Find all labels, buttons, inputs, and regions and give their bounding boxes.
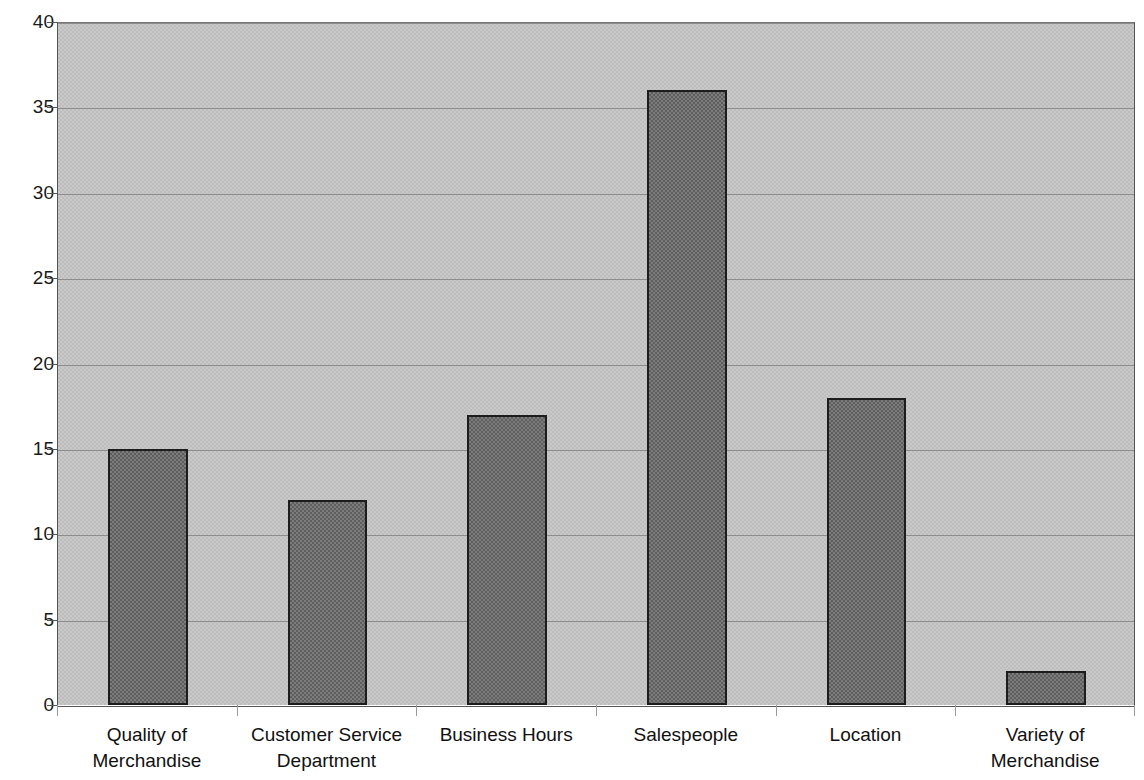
y-tick-mark-25 xyxy=(47,278,57,279)
gridline-40 xyxy=(58,23,1134,24)
y-tick-mark-30 xyxy=(47,193,57,194)
bar-3 xyxy=(647,90,727,705)
x-axis-label-line2: Merchandise xyxy=(955,748,1135,774)
x-axis-label-5: Variety ofMerchandise xyxy=(955,722,1135,774)
bar-2 xyxy=(467,415,547,705)
x-axis-label-3: Salespeople xyxy=(596,722,776,748)
x-tick-mark-end xyxy=(1134,705,1135,716)
y-tick-mark-0 xyxy=(47,705,57,706)
x-axis-labels: Quality ofMerchandiseCustomer ServiceDep… xyxy=(57,722,1135,780)
x-tick-mark-2 xyxy=(416,705,417,716)
x-tick-mark-0 xyxy=(57,705,58,716)
x-tick-mark-3 xyxy=(596,705,597,716)
x-axis-label-2: Business Hours xyxy=(416,722,596,748)
gridline-25 xyxy=(58,279,1134,280)
x-axis-label-line1: Quality of xyxy=(107,724,187,745)
x-axis-label-line1: Location xyxy=(830,724,902,745)
plot-area xyxy=(57,22,1135,705)
gridline-30 xyxy=(58,194,1134,195)
y-tick-mark-40 xyxy=(47,22,57,23)
bar-4 xyxy=(827,398,907,705)
x-axis-label-line1: Customer Service xyxy=(251,724,402,745)
x-axis-ticks xyxy=(57,705,1135,717)
y-tick-mark-35 xyxy=(47,107,57,108)
gridline-15 xyxy=(58,450,1134,451)
gridline-5 xyxy=(58,621,1134,622)
bar-chart: 0510152025303540 Quality ofMerchandiseCu… xyxy=(0,0,1144,780)
bar-1 xyxy=(288,500,368,705)
gridline-10 xyxy=(58,535,1134,536)
x-axis-label-line1: Business Hours xyxy=(440,724,573,745)
x-axis-label-0: Quality ofMerchandise xyxy=(57,722,237,774)
y-tick-mark-10 xyxy=(47,534,57,535)
x-axis-label-line1: Salespeople xyxy=(634,724,739,745)
x-tick-mark-4 xyxy=(776,705,777,716)
x-axis-label-line2: Merchandise xyxy=(57,748,237,774)
bar-0 xyxy=(108,449,188,705)
x-axis-label-1: Customer ServiceDepartment xyxy=(237,722,417,774)
x-tick-mark-5 xyxy=(955,705,956,716)
x-axis-label-4: Location xyxy=(776,722,956,748)
y-tick-mark-5 xyxy=(47,620,57,621)
bar-5 xyxy=(1006,671,1086,705)
y-tick-mark-20 xyxy=(47,364,57,365)
gridline-20 xyxy=(58,365,1134,366)
x-tick-mark-1 xyxy=(237,705,238,716)
y-tick-mark-15 xyxy=(47,449,57,450)
gridline-35 xyxy=(58,108,1134,109)
x-axis-label-line2: Department xyxy=(237,748,417,774)
x-axis-label-line1: Variety of xyxy=(1006,724,1085,745)
